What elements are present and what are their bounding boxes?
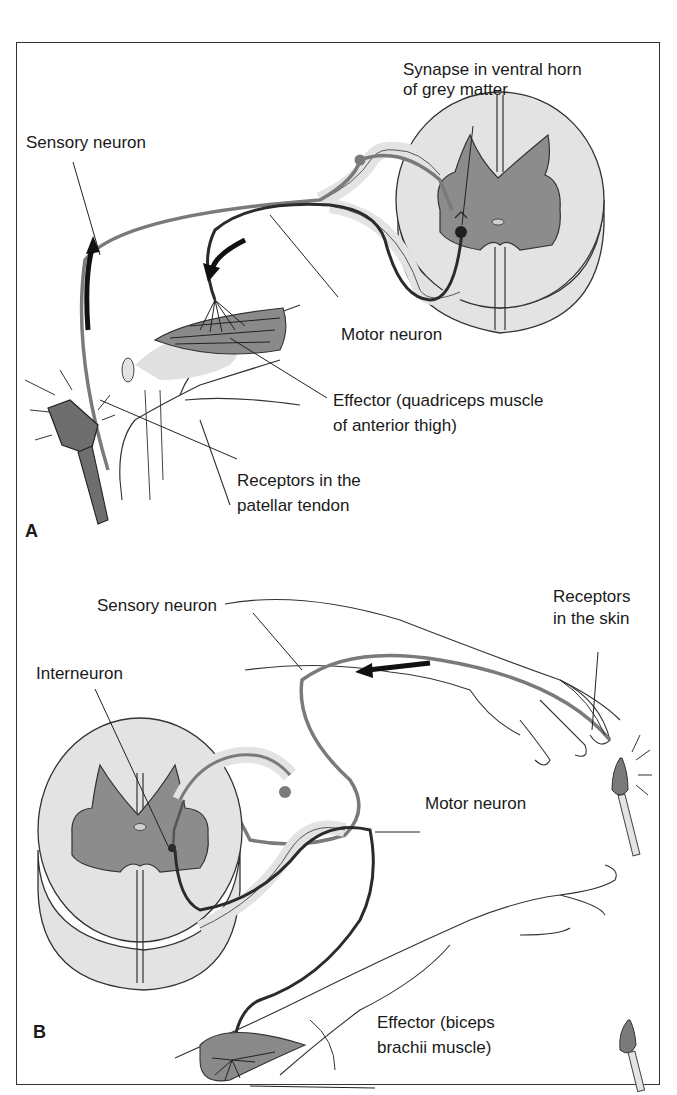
label-sensory-neuron-a: Sensory neuron: [26, 133, 146, 153]
label-receptors-b-line1: Receptors: [553, 587, 630, 607]
label-synapse-line2: of grey matter: [403, 80, 508, 100]
label-motor-neuron-a: Motor neuron: [341, 325, 442, 345]
reflex-arc-illustration: [0, 0, 677, 1095]
label-effector-a-line2: of anterior thigh): [333, 416, 457, 436]
panel-letter-b: B: [33, 1022, 46, 1043]
label-synapse-line1: Synapse in ventral horn: [403, 60, 582, 80]
label-receptors-b-line2: in the skin: [553, 609, 630, 629]
label-receptors-a-line1: Receptors in the: [237, 471, 361, 491]
label-receptors-a-line2: patellar tendon: [237, 496, 349, 516]
panel-letter-a: A: [25, 521, 38, 542]
label-interneuron: Interneuron: [36, 664, 123, 684]
flame-match-icon: [612, 735, 652, 856]
label-effector-a-line1: Effector (quadriceps muscle: [333, 391, 543, 411]
label-motor-neuron-b: Motor neuron: [425, 794, 526, 814]
label-sensory-neuron-b: Sensory neuron: [97, 596, 217, 616]
label-effector-b-line1: Effector (biceps: [377, 1013, 495, 1033]
match-icon-lower: [620, 1020, 645, 1092]
label-effector-b-line2: brachii muscle): [377, 1038, 491, 1058]
